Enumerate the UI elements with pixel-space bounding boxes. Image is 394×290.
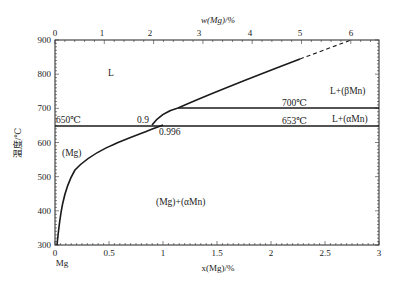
temp-650-label: 650℃ — [56, 115, 81, 125]
x2-tick: 5 — [298, 28, 303, 38]
x2-tick: 6 — [349, 28, 354, 38]
x-tick: 2 — [269, 248, 274, 258]
x2-tick: 2 — [148, 28, 153, 38]
point-0-996-label: 0.996 — [159, 127, 181, 137]
plot-frame — [55, 40, 379, 245]
x2-tick: 0 — [53, 28, 58, 38]
phase-boundaries — [55, 40, 379, 245]
y-tick: 900 — [38, 35, 52, 45]
x2-tick: 1 — [100, 28, 105, 38]
x-tick: 2.5 — [319, 248, 331, 258]
x-tick: 1 — [161, 248, 166, 258]
x-tick: 1.5 — [211, 248, 223, 258]
y-tick: 500 — [38, 172, 52, 182]
y-tick: 600 — [38, 138, 52, 148]
x2-axis-tick-labels: 0 1 2 3 4 5 6 — [53, 28, 354, 38]
x2-tick: 4 — [248, 28, 253, 38]
y-tick: 700 — [38, 103, 52, 113]
x-tick: 0 — [53, 248, 58, 258]
x-tick: 0.5 — [103, 248, 115, 258]
y-tick: 300 — [38, 240, 52, 250]
axis-ticks — [55, 40, 379, 245]
annotations: L L+(βMn) 700℃ L+(αMn) 653℃ 650℃ 0.9 0.9… — [56, 68, 368, 208]
temp-700-label: 700℃ — [282, 98, 307, 108]
temp-653-label: 653℃ — [282, 116, 307, 126]
region-L-label: L — [108, 68, 114, 78]
x2-axis-title: w(Mg)/% — [201, 15, 235, 25]
y-tick: 400 — [38, 206, 52, 216]
solvus-curve — [57, 125, 163, 245]
x-axis-title: x(Mg)/% — [202, 263, 235, 273]
y-axis-tick-labels: 300 400 500 600 700 800 900 — [38, 35, 52, 250]
region-L-aMn-label: L+(αMn) — [332, 114, 368, 125]
liquidus-dashed-curve — [300, 40, 351, 59]
region-mg-label: (Mg) — [62, 148, 82, 159]
phase-diagram: 300 400 500 600 700 800 900 0 0.5 1 1.5 … — [0, 0, 394, 290]
x-origin-mg-label: Mg — [56, 258, 69, 268]
region-L-bMn-label: L+(βMn) — [330, 86, 366, 97]
x2-tick: 3 — [197, 28, 202, 38]
point-0-9-label: 0.9 — [137, 115, 149, 125]
region-mg-amn-label: (Mg)+(αMn) — [156, 197, 205, 208]
liquidus-curve — [152, 59, 300, 125]
y-axis-title: 温度/℃ — [12, 128, 23, 159]
x-tick: 3 — [377, 248, 382, 258]
y-tick: 800 — [38, 69, 52, 79]
